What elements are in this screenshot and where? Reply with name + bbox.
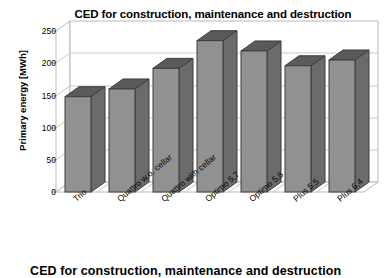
x-tick-label-7: Plus 6,4 bbox=[335, 176, 365, 203]
x-tick-label-5: Optimo 5,8 bbox=[247, 169, 285, 203]
figure-caption: CED for construction, maintenance and de… bbox=[30, 264, 391, 278]
x-tick-label-1: Trio bbox=[71, 187, 88, 204]
x-tick-label-4: Optimo 5,7 bbox=[203, 169, 241, 203]
x-tick-label-6: Plus 5,5 bbox=[291, 176, 321, 203]
